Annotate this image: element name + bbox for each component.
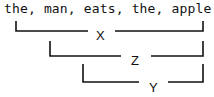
bracket-x-right xyxy=(115,21,203,31)
bracket-z-right xyxy=(151,41,203,56)
bracket-y-label: Y xyxy=(149,80,158,95)
bracket-x-label: X xyxy=(96,28,105,43)
bracket-z-left xyxy=(50,41,121,56)
bracket-z-label: Z xyxy=(131,53,139,68)
bracket-x-left xyxy=(16,21,88,31)
bracket-diagram: X Z Y xyxy=(0,0,214,97)
bracket-y-right xyxy=(168,64,203,82)
